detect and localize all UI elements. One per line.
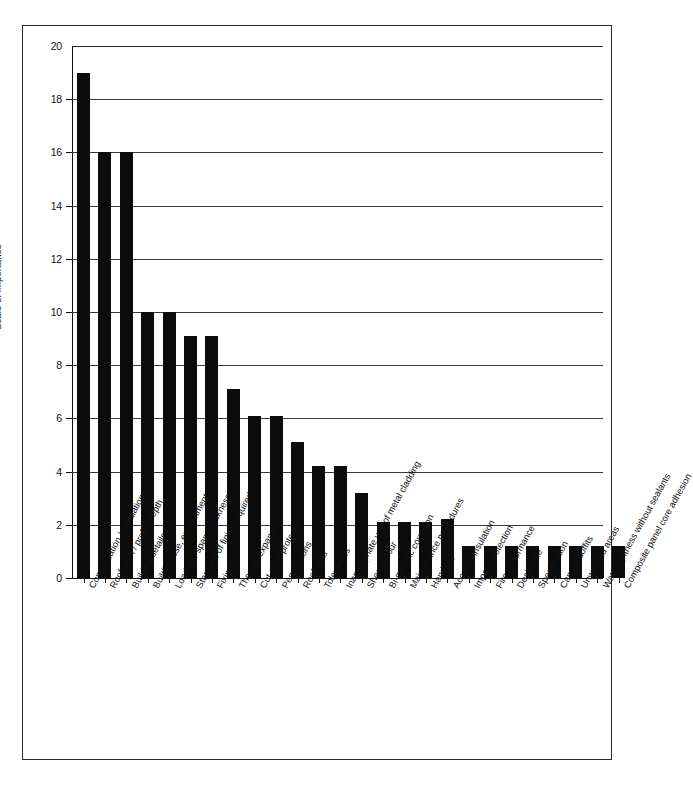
bar — [227, 389, 240, 578]
y-tick-label-4: 4 — [36, 467, 62, 477]
gridline-16 — [72, 152, 603, 153]
x-tick-mark — [84, 578, 85, 583]
x-tick-mark — [191, 578, 192, 583]
y-tick-label-16: 16 — [36, 147, 62, 157]
y-tick-mark-18 — [66, 99, 72, 100]
x-tick-mark — [533, 578, 534, 583]
y-tick-mark-0 — [66, 578, 72, 579]
y-tick-mark-10 — [66, 312, 72, 313]
x-tick-mark — [340, 578, 341, 583]
x-tick-mark — [490, 578, 491, 583]
y-tick-label-0: 0 — [36, 573, 62, 583]
x-tick-mark — [148, 578, 149, 583]
x-tick-mark — [619, 578, 620, 583]
x-tick-mark — [405, 578, 406, 583]
y-tick-label-14: 14 — [36, 201, 62, 211]
y-tick-label-6: 6 — [36, 413, 62, 423]
x-tick-mark — [319, 578, 320, 583]
bar — [77, 73, 90, 578]
x-tick-mark — [362, 578, 363, 583]
y-tick-mark-16 — [66, 152, 72, 153]
y-tick-mark-2 — [66, 525, 72, 526]
y-axis-title: Scale of importance — [0, 244, 3, 330]
gridline-20 — [72, 46, 603, 47]
gridline-18 — [72, 99, 603, 100]
y-tick-mark-12 — [66, 259, 72, 260]
x-tick-mark — [512, 578, 513, 583]
y-tick-label-10: 10 — [36, 307, 62, 317]
gridline-12 — [72, 259, 603, 260]
x-tick-mark — [233, 578, 234, 583]
x-tick-mark — [276, 578, 277, 583]
x-tick-mark — [126, 578, 127, 583]
plot-area — [72, 46, 603, 578]
x-tick-mark — [169, 578, 170, 583]
x-tick-mark — [447, 578, 448, 583]
x-tick-mark — [212, 578, 213, 583]
y-tick-label-12: 12 — [36, 254, 62, 264]
x-tick-mark — [426, 578, 427, 583]
x-tick-mark — [383, 578, 384, 583]
gridline-14 — [72, 206, 603, 207]
x-tick-mark — [554, 578, 555, 583]
x-tick-mark — [597, 578, 598, 583]
x-tick-mark — [298, 578, 299, 583]
x-tick-mark — [469, 578, 470, 583]
y-tick-label-2: 2 — [36, 520, 62, 530]
x-tick-mark — [255, 578, 256, 583]
y-tick-mark-14 — [66, 206, 72, 207]
y-tick-label-8: 8 — [36, 360, 62, 370]
y-tick-mark-6 — [66, 418, 72, 419]
y-tick-label-18: 18 — [36, 94, 62, 104]
x-tick-mark — [105, 578, 106, 583]
bar — [98, 152, 111, 578]
x-tick-mark — [576, 578, 577, 583]
y-tick-label-20: 20 — [36, 41, 62, 51]
y-tick-mark-8 — [66, 365, 72, 366]
y-tick-mark-4 — [66, 472, 72, 473]
